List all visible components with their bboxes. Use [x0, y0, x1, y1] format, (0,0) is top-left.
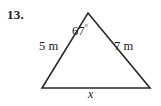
angle-label-apex: 67°	[72, 25, 88, 38]
figure-container: 13. 5 m 7 m 67° x	[0, 0, 161, 106]
side-label-base-variable: x	[88, 88, 93, 100]
side-label-left: 5 m	[39, 40, 58, 53]
triangle-diagram	[0, 0, 161, 106]
triangle-outline	[42, 13, 150, 88]
degree-symbol-icon: °	[85, 22, 88, 32]
angle-value: 67	[72, 24, 85, 38]
side-label-right: 7 m	[114, 40, 133, 53]
